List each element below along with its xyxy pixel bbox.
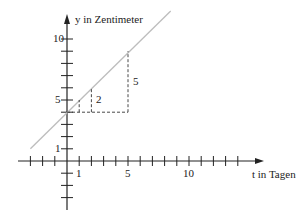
function-line — [30, 11, 170, 149]
x-tick-label-5: 5 — [125, 167, 131, 179]
coordinate-diagram: 2 5 1 5 10 1 5 10 t in Tagen y in Zentim… — [0, 0, 308, 221]
x-tick-label-10: 10 — [183, 167, 195, 179]
y-tick-label-10: 10 — [53, 32, 65, 44]
x-tick-label-1: 1 — [76, 167, 82, 179]
y-axis-label: y in Zentimeter — [75, 13, 143, 25]
x-axis-label: t in Tagen — [252, 168, 296, 180]
x-axis-arrow-icon — [255, 158, 264, 164]
rise-label-2: 2 — [96, 93, 102, 105]
y-axis-arrow-icon — [64, 14, 70, 24]
y-tick-label-1: 1 — [55, 142, 61, 154]
y-tick-label-5: 5 — [55, 93, 61, 105]
rise-label-5: 5 — [133, 75, 139, 87]
